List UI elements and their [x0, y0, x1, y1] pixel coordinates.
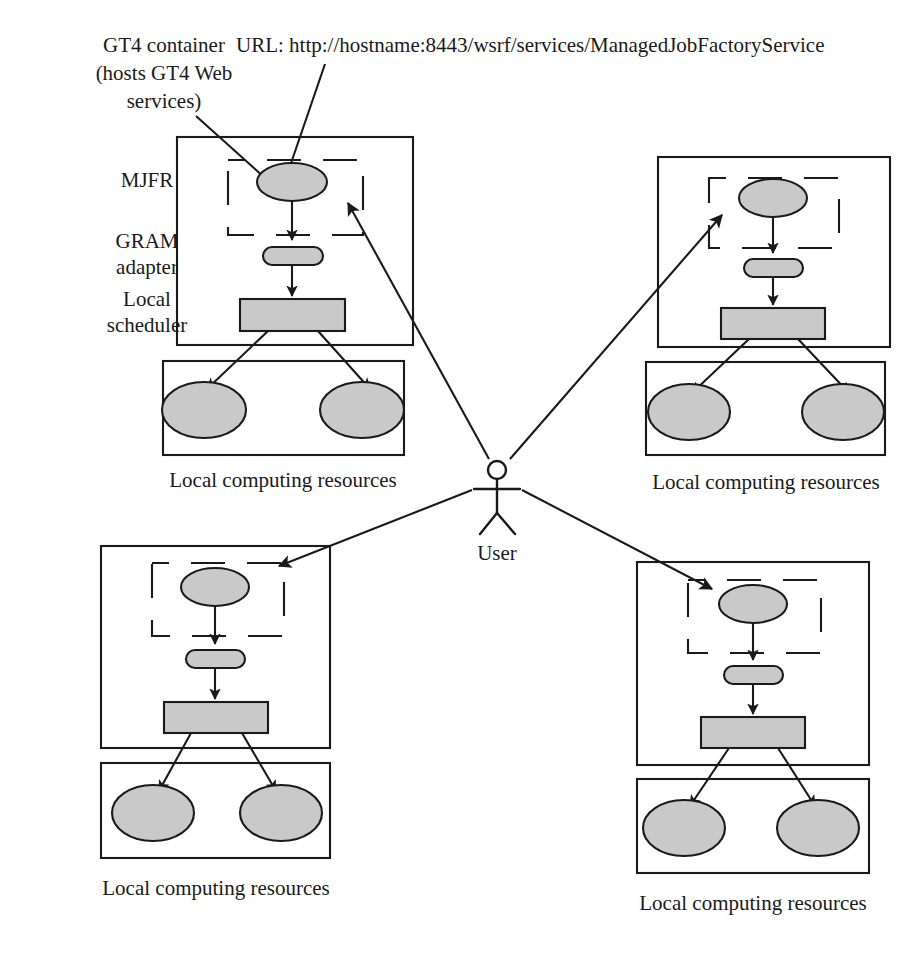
- resource-node-2[interactable]: [240, 785, 322, 841]
- resources-caption: Local computing resources: [652, 470, 879, 494]
- mjfr-node[interactable]: [719, 585, 787, 623]
- user-label: User: [477, 541, 517, 565]
- row-label-mjfr: MJFR: [121, 168, 174, 192]
- resource-node-1[interactable]: [162, 382, 246, 438]
- cluster-bottom-left[interactable]: Local computing resources: [101, 546, 330, 900]
- scheduler-to-resource-2-arrow: [778, 748, 815, 806]
- scheduler-to-resource-1-arrow: [690, 748, 729, 806]
- mjfr-node[interactable]: [181, 568, 249, 606]
- resource-node-2[interactable]: [320, 382, 404, 438]
- gt4-container-leader-line: [196, 116, 265, 178]
- resources-caption: Local computing resources: [639, 891, 866, 915]
- resources-caption: Local computing resources: [102, 876, 329, 900]
- local-scheduler-node[interactable]: [240, 299, 345, 331]
- row-label-scheduler-line1: Local: [123, 287, 171, 311]
- resource-node-2[interactable]: [802, 384, 884, 440]
- gt4-container-label-line1: GT4 container: [103, 33, 225, 57]
- resource-node-2[interactable]: [777, 800, 859, 856]
- gram-adapter-node[interactable]: [724, 666, 783, 684]
- cluster-bottom-right[interactable]: Local computing resources: [637, 562, 869, 915]
- row-labels: MJFR GRAM adapter Local scheduler: [107, 168, 187, 337]
- resources-caption: Local computing resources: [169, 468, 396, 492]
- gram-adapter-node[interactable]: [263, 247, 323, 265]
- annotation-url: URL: http://hostname:8443/wsrf/services/…: [236, 33, 824, 172]
- diagram-canvas: GT4 container (hosts GT4 Web services) U…: [0, 0, 915, 963]
- user-head-icon: [488, 461, 506, 479]
- user-left-leg-line: [480, 513, 497, 534]
- resource-node-1[interactable]: [112, 785, 194, 841]
- user-right-leg-line: [497, 513, 515, 534]
- user-actor[interactable]: User: [474, 461, 520, 565]
- local-scheduler-node[interactable]: [701, 717, 805, 748]
- user-to-bottom-left-arrow: [279, 490, 472, 566]
- row-label-scheduler-line2: scheduler: [107, 313, 187, 337]
- gram-adapter-node[interactable]: [744, 259, 803, 277]
- row-label-gram-line2: adapter: [116, 255, 178, 279]
- local-scheduler-node[interactable]: [721, 308, 825, 339]
- resource-node-1[interactable]: [643, 800, 725, 856]
- mjfr-node[interactable]: [257, 163, 327, 201]
- mjfr-node[interactable]: [739, 179, 807, 217]
- user-to-bottom-right-arrow: [522, 490, 712, 589]
- gram-adapter-node[interactable]: [186, 650, 245, 668]
- cluster-top-left[interactable]: Local computing resources: [162, 137, 413, 492]
- gt4-container-label-line2: (hosts GT4 Web: [96, 61, 233, 85]
- resource-node-1[interactable]: [648, 384, 730, 440]
- row-label-gram-line1: GRAM: [115, 229, 178, 253]
- cluster-top-right[interactable]: Local computing resources: [646, 157, 890, 494]
- gt4-container-label-line3: services): [127, 89, 202, 113]
- url-leader-line: [288, 64, 325, 172]
- local-scheduler-node[interactable]: [164, 702, 268, 733]
- grid-architecture-diagram: GT4 container (hosts GT4 Web services) U…: [0, 0, 915, 963]
- url-label: URL: http://hostname:8443/wsrf/services/…: [236, 33, 824, 57]
